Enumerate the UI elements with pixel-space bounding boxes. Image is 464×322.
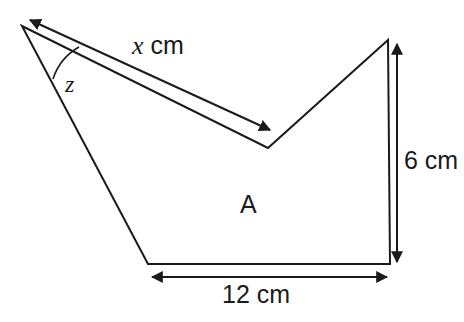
angle-label-z: z	[65, 72, 74, 96]
height-label: 6 cm	[404, 148, 458, 173]
diagram-canvas: x cm z A 6 cm 12 cm	[0, 0, 464, 322]
x-length-label: x cm	[132, 33, 184, 59]
x-units-text: cm	[144, 31, 184, 59]
x-variable-text: x	[132, 31, 144, 60]
geometry-figure	[0, 0, 464, 322]
region-label-a: A	[240, 192, 257, 217]
arrowhead-polygon-outline	[22, 26, 390, 264]
base-label: 12 cm	[222, 282, 290, 307]
